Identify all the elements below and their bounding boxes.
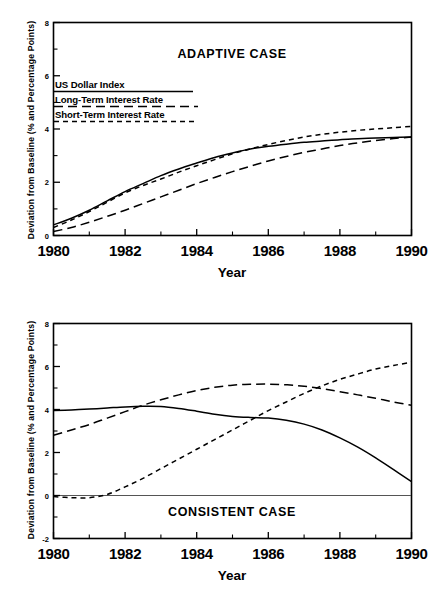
x-tick-label: 1990 [395,242,427,259]
x-tick-label: 1988 [324,242,356,259]
x-tick-label: 1984 [181,545,214,562]
series-short-term-interest-rate [54,126,412,227]
y-tick-marks [54,23,61,236]
y-tick-label: 8 [45,19,49,28]
x-tick-label: 1984 [181,242,214,259]
x-axis-title: Year [218,265,247,280]
legend-label-us-dollar-index: US Dollar Index [55,79,125,90]
x-tick-label: 1990 [395,545,427,562]
y-axis-title: Deviation from Baseline (% and Percentag… [26,321,36,540]
y-tick-label: 2 [45,449,49,458]
x-tick-label: 1980 [37,242,69,259]
y-tick-label: -2 [42,535,49,544]
panel-title-consistent: CONSISTENT CASE [168,505,296,519]
x-axis-title: Year [218,568,247,583]
y-axis-title: Deviation from Baseline (% and Percentag… [26,21,36,240]
series-long-term-interest-rate [54,137,412,232]
legend-adaptive: US Dollar Index Long-Term Interest Rate … [54,79,198,122]
y-tick-label: 6 [45,72,49,81]
x-tick-marks [54,229,412,236]
y-tick-label: 0 [45,492,49,501]
series-short-term-interest-rate [54,362,412,498]
y-tick-label: 2 [45,178,49,187]
x-tick-label: 1986 [252,545,284,562]
x-tick-label: 1980 [37,545,69,562]
adaptive-case-svg: Deviation from Baseline (% and Percentag… [0,0,445,300]
x-tick-label: 1986 [252,242,284,259]
y-tick-label: 4 [45,125,50,134]
panel-title-adaptive: ADAPTIVE CASE [177,47,286,61]
x-tick-label: 1988 [324,545,356,562]
y-tick-label: 4 [45,406,50,415]
x-tick-marks [54,532,412,539]
y-tick-label: 0 [45,232,49,241]
series-group-consistent [54,362,412,498]
series-group-adaptive [54,126,412,231]
adaptive-case-chart: Deviation from Baseline (% and Percentag… [0,0,445,300]
legend-label-short-term-interest-rate: Short-Term Interest Rate [55,109,164,120]
consistent-case-svg: Deviation from Baseline (% and Percentag… [0,300,445,601]
x-tick-label: 1982 [109,242,141,259]
legend-label-long-term-interest-rate: Long-Term Interest Rate [55,94,163,105]
x-tick-label: 1982 [109,545,141,562]
consistent-case-chart: Deviation from Baseline (% and Percentag… [0,300,445,601]
series-us-dollar-index [54,137,412,225]
y-tick-marks [54,324,61,539]
y-tick-label: 6 [45,363,49,372]
y-tick-label: 8 [45,320,49,329]
series-long-term-interest-rate [54,384,412,435]
